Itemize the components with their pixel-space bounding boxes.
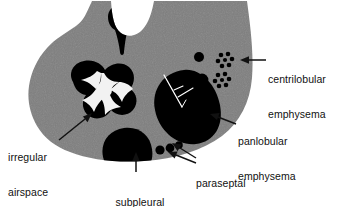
- centrilobular-solid-focus: [196, 74, 209, 87]
- irregular-airspace-enlargement-label: irregular airspace enlargement: [8, 129, 67, 207]
- subpleural-bulla-label: subpleural bulla: [101, 174, 179, 207]
- paraseptal-cyst: [166, 144, 175, 153]
- paraseptal-cyst: [155, 145, 164, 154]
- irregular-label-line-2: airspace: [8, 187, 67, 199]
- paraseptal-emphysema-label: paraseptal emphysema: [196, 155, 254, 207]
- centrilobular-label-line-1: centrilobular: [268, 74, 326, 86]
- centrilobular-solid-focus: [194, 52, 204, 62]
- emphysema-diagram-figure: centrilobular emphysema panlobular emphy…: [0, 0, 344, 207]
- subpleural-label-line-1: subpleural: [101, 197, 179, 207]
- paraseptal-label-line-1: paraseptal: [196, 178, 254, 190]
- irregular-label-line-1: irregular: [8, 152, 67, 164]
- panlobular-label-line-1: panlobular: [238, 136, 296, 148]
